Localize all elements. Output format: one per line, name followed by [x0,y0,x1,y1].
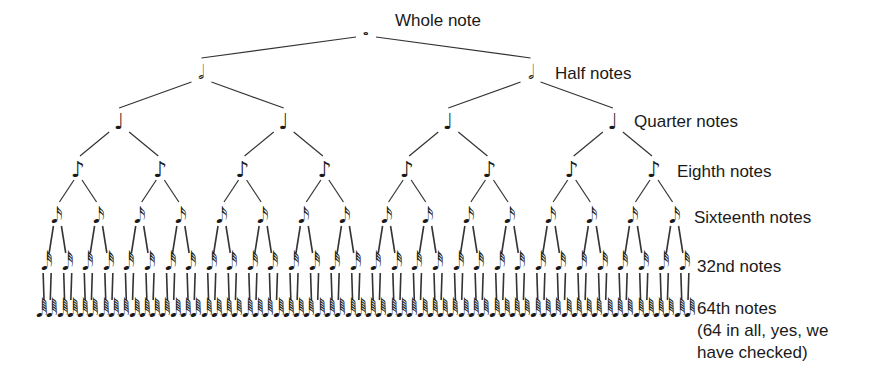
32nd-note-icon: 𝅘𝅥𝅰 [267,252,279,274]
32nd-note-icon: 𝅘𝅥𝅰 [350,252,362,274]
note-value-tree: 𝅝𝅗𝅥𝅗𝅥♩♩♩♩♪♪♪♪♪♪♪♪𝅘𝅥𝅯𝅘𝅥𝅯𝅘𝅥𝅯𝅘𝅥𝅯𝅘𝅥𝅯𝅘𝅥𝅯𝅘𝅥𝅯𝅘𝅥… [0,0,895,387]
32nd-note-icon: 𝅘𝅥𝅰 [514,252,526,274]
32nd-note-icon: 𝅘𝅥𝅰 [165,252,177,274]
32nd-note-icon: 𝅘𝅥𝅰 [62,252,74,274]
sixteenth-note-icon: 𝅘𝅥𝅯 [216,205,228,227]
tree-edge [541,82,613,108]
note-annotation-line-2: have checked) [697,342,808,363]
tree-edge [553,180,568,202]
tree-edge [448,82,520,108]
note-annotation-line-1: (64 in all, yes, we [697,320,828,341]
quarter-note-icon: ♩ [443,111,453,133]
eighth-note-icon: ♪ [647,159,661,181]
sixteenth-note-icon: 𝅘𝅥𝅯 [381,205,393,227]
32nd-note-icon: 𝅘𝅥𝅰 [617,252,629,274]
32nd-note-icon: 𝅘𝅥𝅰 [103,252,115,274]
tree-edge [294,132,323,156]
sixteenth-note-icon: 𝅘𝅥𝅯 [504,205,516,227]
tree-edge [306,180,321,202]
tree-edge [224,180,239,202]
eighth-note-icon: ♪ [236,159,250,181]
sixteenth-note-icon: 𝅘𝅥𝅯 [463,205,475,227]
tree-edge [623,132,652,156]
sixteenth-note-icon: 𝅘𝅥𝅯 [257,205,269,227]
quarter-note-icon: ♩ [114,111,124,133]
eighth-note-icon: ♪ [71,159,85,181]
tree-edge [409,132,438,156]
tree-edge [82,180,97,202]
64th-note-icon: 𝅘𝅥𝅱 [684,299,696,321]
32nd-note-icon: 𝅘𝅥𝅰 [82,252,94,274]
32nd-note-icon: 𝅘𝅥𝅰 [144,252,156,274]
32nd-note-icon: 𝅘𝅥𝅰 [411,252,423,274]
tree-edge [576,180,591,202]
32nd-note-icon: 𝅘𝅥𝅰 [494,252,506,274]
sixteenth-note-icon: 𝅘𝅥𝅯 [93,205,105,227]
32nd-note-icon: 𝅘𝅥𝅰 [123,252,135,274]
quarter-note-icon: ♩ [608,111,618,133]
32nd-note-icon: 𝅘𝅥𝅰 [473,252,485,274]
tree-edge [245,132,274,156]
tree-edge [635,180,650,202]
32nd-note-icon: 𝅘𝅥𝅰 [41,252,53,274]
sixteenth-note-icon: 𝅘𝅥𝅯 [669,205,681,227]
tree-edge [658,180,673,202]
sixteenth-note-icon: 𝅘𝅥𝅯 [545,205,557,227]
tree-edge [201,37,356,58]
32nd-note-icon: 𝅘𝅥𝅰 [597,252,609,274]
32nd-note-icon: 𝅘𝅥𝅰 [432,252,444,274]
tree-edge [411,180,426,202]
label-32nd-notes: 32nd notes [697,256,781,277]
32nd-note-icon: 𝅘𝅥𝅰 [576,252,588,274]
32nd-note-icon: 𝅘𝅥𝅰 [206,252,218,274]
label-half-notes: Half notes [555,63,632,84]
sixteenth-note-icon: 𝅘𝅥𝅯 [627,205,639,227]
tree-edge [493,180,508,202]
32nd-note-icon: 𝅘𝅥𝅰 [309,252,321,274]
32nd-note-icon: 𝅘𝅥𝅰 [679,252,691,274]
32nd-note-icon: 𝅘𝅥𝅰 [453,252,465,274]
tree-edge [574,132,603,156]
sixteenth-note-icon: 𝅘𝅥𝅯 [51,205,63,227]
half-note-icon: 𝅗𝅥 [528,62,534,82]
32nd-note-icon: 𝅘𝅥𝅰 [638,252,650,274]
sixteenth-note-icon: 𝅘𝅥𝅯 [298,205,310,227]
label-eighth-notes: Eighth notes [677,161,772,182]
tree-edge [119,82,191,108]
tree-edge [329,180,344,202]
tree-edge [59,180,74,202]
label-quarter-notes: Quarter notes [634,111,738,132]
sixteenth-note-icon: 𝅘𝅥𝅯 [134,205,146,227]
32nd-note-icon: 𝅘𝅥𝅰 [185,252,197,274]
tree-edge [376,37,531,58]
tree-edge [247,180,262,202]
32nd-note-icon: 𝅘𝅥𝅰 [391,252,403,274]
32nd-note-icon: 𝅘𝅥𝅰 [535,252,547,274]
tree-edge [142,180,157,202]
tree-edge [80,132,109,156]
half-note-icon: 𝅗𝅥 [198,62,204,82]
32nd-note-icon: 𝅘𝅥𝅰 [555,252,567,274]
eighth-note-icon: ♪ [153,159,167,181]
32nd-note-icon: 𝅘𝅥𝅰 [226,252,238,274]
label-whole-note: Whole note [395,10,481,31]
eighth-note-icon: ♪ [565,159,579,181]
tree-edge [211,82,283,108]
tree-edge [164,180,179,202]
sixteenth-note-icon: 𝅘𝅥𝅯 [422,205,434,227]
whole-note-icon: 𝅝 [363,23,369,37]
tree-edge [129,132,158,156]
32nd-note-icon: 𝅘𝅥𝅰 [370,252,382,274]
tree-edge [389,180,404,202]
tree-edge [471,180,486,202]
quarter-note-icon: ♩ [279,111,289,133]
eighth-note-icon: ♪ [318,159,332,181]
label-sixteenth-notes: Sixteenth notes [694,207,811,228]
eighth-note-icon: ♪ [482,159,496,181]
label-64th-notes: 64th notes [697,298,776,319]
32nd-note-icon: 𝅘𝅥𝅰 [329,252,341,274]
sixteenth-note-icon: 𝅘𝅥𝅯 [586,205,598,227]
32nd-note-icon: 𝅘𝅥𝅰 [247,252,259,274]
eighth-note-icon: ♪ [400,159,414,181]
32nd-note-icon: 𝅘𝅥𝅰 [288,252,300,274]
